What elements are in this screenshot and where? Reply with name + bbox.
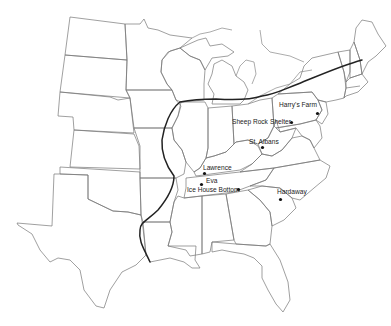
- site-marker: [279, 198, 282, 201]
- site-label-st-albans: St. Albans: [249, 138, 279, 145]
- site-harrys-farm: Harry's Farm: [279, 101, 319, 115]
- map-canvas: Harry's Farm Sheep Rock Shelter St. Alba…: [0, 0, 391, 326]
- state-alabama: [202, 194, 234, 254]
- state-texas: [17, 174, 146, 308]
- state-florida: [212, 242, 290, 312]
- site-label-eva: Eva: [206, 177, 218, 184]
- site-st-albans: St. Albans: [249, 138, 279, 149]
- state-missouri: [134, 128, 186, 178]
- state-illinois: [172, 102, 208, 172]
- site-label-shelter: Shelter: [270, 118, 292, 125]
- range-boundary-line: [140, 60, 362, 262]
- state-maine: [354, 20, 386, 74]
- state-indiana: [206, 106, 234, 158]
- state-connecticut-divider: [346, 86, 360, 88]
- state-new-york: [278, 52, 346, 102]
- state-minnesota: [125, 19, 192, 90]
- lake-huron-shore: [236, 60, 256, 84]
- state-wisconsin: [161, 48, 205, 102]
- site-label-harrys-farm: Harry's Farm: [279, 101, 317, 109]
- site-marker: [316, 112, 319, 115]
- state-boundaries: [17, 17, 386, 312]
- lake-superior-shore: [192, 28, 232, 38]
- site-ice-house-bottom: Ice House Bottom: [187, 186, 240, 193]
- state-north-dakota: [65, 17, 127, 60]
- site-marker: [261, 146, 264, 149]
- site-label-sheep-rock: Sheep Rock: [232, 118, 269, 126]
- state-mississippi: [168, 196, 202, 256]
- site-shelter: Shelter: [270, 118, 293, 125]
- state-nebraska: [58, 92, 134, 133]
- state-michigan-upper: [180, 38, 234, 70]
- site-label-ice-house-bottom: Ice House Bottom: [187, 186, 240, 193]
- state-georgia: [226, 190, 272, 246]
- site-marker: [203, 172, 206, 175]
- state-kansas: [70, 130, 140, 169]
- site-label-hardaway: Hardaway: [277, 188, 307, 196]
- state-south-dakota: [60, 55, 130, 98]
- site-label-lawrence: Lawrence: [203, 164, 232, 171]
- site-eva: Eva: [200, 177, 218, 186]
- canada-line: [260, 30, 304, 62]
- state-michigan-lower: [208, 60, 248, 104]
- site-sheep-rock: Sheep Rock: [232, 118, 269, 126]
